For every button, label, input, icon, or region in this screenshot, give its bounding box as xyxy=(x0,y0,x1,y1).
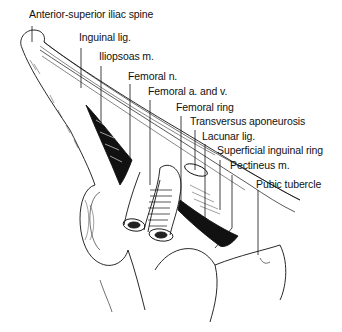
label-femoral-artery-vein: Femoral a. and v. xyxy=(148,85,227,97)
label-pubic-tubercle: Pubic tubercle xyxy=(256,178,321,190)
label-femoral-ring: Femoral ring xyxy=(176,101,234,113)
acetabulum xyxy=(80,185,128,265)
label-lacunar-ligament: Lacunar lig. xyxy=(202,130,255,142)
iliopsoas-muscle xyxy=(86,105,132,185)
label-anterior-superior-iliac-spine: Anterior-superior iliac spine xyxy=(29,8,153,20)
label-pectineus-muscle: Pectineus m. xyxy=(230,159,290,171)
label-iliopsoas-muscle: Iliopsoas m. xyxy=(99,50,154,62)
pectineus-muscle xyxy=(178,200,238,247)
label-inguinal-ligament: Inguinal lig. xyxy=(79,31,131,43)
label-femoral-nerve: Femoral n. xyxy=(128,70,177,82)
inguinal-anatomy-illustration xyxy=(0,0,342,332)
label-superficial-inguinal-ring: Superficial inguinal ring xyxy=(217,144,323,156)
pubic-ramus xyxy=(128,250,145,310)
femoral-artery xyxy=(124,168,160,230)
label-transversus-aponeurosis: Transversus aponeurosis xyxy=(190,115,305,127)
